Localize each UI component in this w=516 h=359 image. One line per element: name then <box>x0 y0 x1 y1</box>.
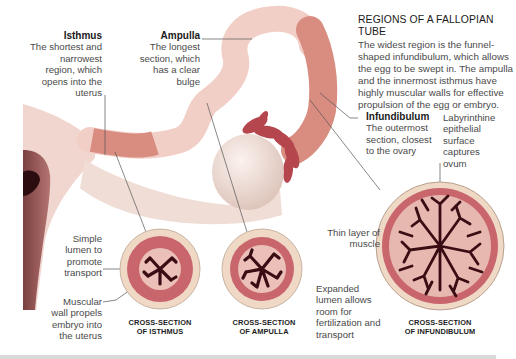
annotation-labyrinthine: Labyrinthine epithelial surface captures… <box>443 112 503 169</box>
fallopian-tube <box>90 19 323 150</box>
caption-infundibulum: CROSS-SECTION OF INFUNDIBULUM <box>392 318 488 336</box>
cross-section-isthmus <box>120 229 200 309</box>
caption-infundibulum-line1: CROSS-SECTION <box>392 318 488 327</box>
caption-isthmus-line2: OF ISTHMUS <box>118 327 202 336</box>
caption-isthmus: CROSS-SECTION OF ISTHMUS <box>118 318 202 336</box>
caption-ampulla-line2: OF AMPULLA <box>222 327 306 336</box>
cross-section-ampulla <box>222 229 302 309</box>
annotation-simple-lumen: Simple lumen to promote transport <box>48 233 102 279</box>
cross-section-infundibulum <box>376 182 504 310</box>
isthmus-description: The shortest and narrowest region, which… <box>30 41 102 98</box>
label-ampulla: Ampulla The longest section, which has a… <box>130 30 200 87</box>
caption-isthmus-line1: CROSS-SECTION <box>118 318 202 327</box>
caption-infundibulum-line2: OF INFUNDIBULUM <box>392 327 488 336</box>
isthmus-title: Isthmus <box>30 30 102 41</box>
annotation-muscular-wall: Muscular wall propels embryo into the ut… <box>44 296 102 342</box>
infundibulum-title: Infundibulum <box>366 111 432 122</box>
caption-ampulla-line1: CROSS-SECTION <box>222 318 306 327</box>
annotation-thin-muscle: Thin layer of muscle <box>308 227 380 250</box>
diagram-description: The widest region is the funnel-shaped i… <box>358 39 513 110</box>
ampulla-title: Ampulla <box>130 30 200 41</box>
infundibulum-description: The outermost section, closest to the ov… <box>366 122 432 156</box>
label-isthmus: Isthmus The shortest and narrowest regio… <box>30 30 102 98</box>
bottom-divider <box>0 355 496 359</box>
caption-ampulla: CROSS-SECTION OF AMPULLA <box>222 318 306 336</box>
label-infundibulum: Infundibulum The outermost section, clos… <box>366 111 432 157</box>
intro-text-block: REGIONS OF A FALLOPIAN TUBE The widest r… <box>358 14 516 111</box>
ovary <box>212 134 284 210</box>
diagram-title: REGIONS OF A FALLOPIAN TUBE <box>358 14 516 38</box>
ampulla-description: The longest section, which has a clear b… <box>140 41 200 86</box>
annotation-expanded-lumen: Expanded lumen allows room for fertiliza… <box>316 283 382 340</box>
